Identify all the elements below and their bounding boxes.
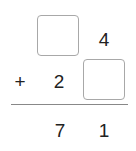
answer-box-ones[interactable] (83, 59, 125, 100)
digit-result-ones: 1 (96, 121, 112, 140)
digit-result-tens: 7 (52, 121, 68, 140)
plus-operator: + (12, 72, 28, 91)
sum-line (11, 104, 128, 105)
digit-row2-tens: 2 (51, 72, 67, 91)
answer-box-tens[interactable] (37, 15, 79, 56)
digit-row1-ones: 4 (96, 30, 112, 49)
